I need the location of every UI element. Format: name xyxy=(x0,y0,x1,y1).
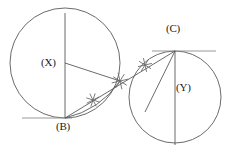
label-center-y: (Y) xyxy=(176,82,191,93)
label-center-x: (X) xyxy=(41,57,56,68)
geometry-diagram: (X) (Y) (B) (C) xyxy=(0,0,234,158)
label-point-c: (C) xyxy=(166,23,180,34)
label-point-b: (B) xyxy=(56,121,70,132)
radius-x-to-tangency xyxy=(65,63,120,81)
geometry-canvas xyxy=(0,0,234,158)
